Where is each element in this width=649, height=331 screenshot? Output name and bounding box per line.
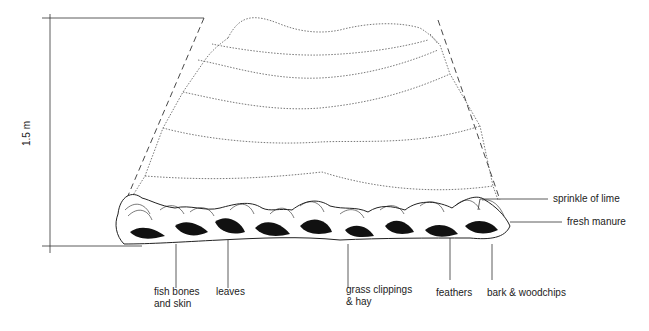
label-leaves: leaves: [216, 286, 245, 298]
compost-diagram: [0, 0, 649, 331]
label-sprinkle-of-lime: sprinkle of lime: [553, 193, 620, 205]
label-bark-woodchips: bark & woodchips: [487, 287, 566, 299]
label-grass-clippings: grass clippings & hay: [346, 284, 412, 308]
label-fresh-manure: fresh manure: [567, 216, 626, 228]
label-fish-bones-line2: and skin: [154, 298, 200, 310]
base-heap: [116, 195, 510, 244]
label-fish-bones-line1: fish bones: [154, 286, 200, 298]
layer-lines: [130, 18, 498, 200]
pile-outline-dashed: [124, 18, 500, 205]
label-grass-line1: grass clippings: [346, 284, 412, 296]
label-feathers: feathers: [436, 287, 472, 299]
label-grass-line2: & hay: [346, 296, 412, 308]
label-fish-bones: fish bones and skin: [154, 286, 200, 310]
height-dimension-label: 1.5 m: [21, 121, 32, 146]
